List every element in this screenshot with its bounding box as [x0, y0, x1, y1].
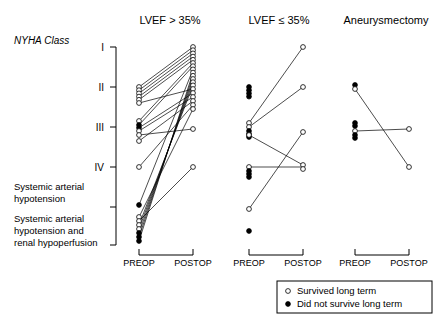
- svg-text:hypotension and: hypotension and: [14, 225, 84, 236]
- panel3-x-bracket: [355, 249, 409, 255]
- svg-text:renal hypoperfusion: renal hypoperfusion: [14, 237, 97, 248]
- panel3-x-label-preop: PREOP: [339, 258, 371, 268]
- panel1-segments: [139, 47, 193, 241]
- chart-svg: LVEF > 35% LVEF ≤ 35% Aneurysmectomy NYH…: [0, 0, 443, 321]
- panel2-postop-markers: [301, 45, 306, 172]
- panel1-x-bracket: [139, 249, 193, 255]
- y-axis: [110, 47, 116, 245]
- y-tick-label-i: I: [101, 42, 104, 53]
- y-label-hypotension-renal: Systemic arterial hypotension and renal …: [14, 213, 97, 248]
- panel3-segments: [355, 89, 409, 167]
- legend-died-icon: [286, 302, 291, 307]
- panel2-x-bracket: [249, 249, 303, 255]
- panel-aneurysmectomy: PREOP POSTOP: [339, 83, 427, 268]
- panel1-postop-markers: [191, 45, 196, 170]
- legend: Survived long term Did not survive long …: [277, 281, 432, 313]
- panel2-x-label-postop: POSTOP: [284, 258, 321, 268]
- panel-lvef-le-35: PREOP POSTOP: [233, 45, 321, 268]
- panel3-x-label-postop: POSTOP: [390, 258, 427, 268]
- y-axis-title: NYHA Class: [14, 35, 69, 46]
- panel2-preop-markers: [247, 85, 252, 234]
- y-tick-label-ii: II: [98, 82, 104, 93]
- panel-lvef-gt-35: PREOP POSTOP: [123, 45, 211, 268]
- panel1-preop-markers: [137, 85, 142, 244]
- y-tick-label-iv: IV: [95, 162, 105, 173]
- svg-text:Systemic arterial: Systemic arterial: [14, 213, 84, 224]
- panel2-segments: [249, 47, 303, 209]
- panel-title-lvef-le-35: LVEF ≤ 35%: [249, 14, 310, 26]
- panel3-postop-markers: [407, 127, 412, 170]
- legend-survived-icon: [286, 289, 291, 294]
- panel-title-lvef-gt-35: LVEF > 35%: [139, 14, 200, 26]
- y-label-hypotension: Systemic arterial hypotension: [14, 181, 84, 204]
- legend-died-label: Did not survive long term: [297, 298, 402, 309]
- panel-title-aneurysmectomy: Aneurysmectomy: [344, 14, 429, 26]
- nyha-class-figure: LVEF > 35% LVEF ≤ 35% Aneurysmectomy NYH…: [0, 0, 443, 321]
- panel1-x-label-postop: POSTOP: [174, 258, 211, 268]
- svg-text:hypotension: hypotension: [14, 193, 65, 204]
- legend-survived-label: Survived long term: [297, 285, 376, 296]
- svg-text:Systemic arterial: Systemic arterial: [14, 181, 84, 192]
- panel1-x-label-preop: PREOP: [123, 258, 155, 268]
- y-tick-label-iii: III: [96, 122, 104, 133]
- panel2-x-label-preop: PREOP: [233, 258, 265, 268]
